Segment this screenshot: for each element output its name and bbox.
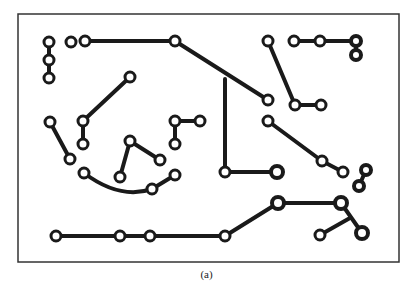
pad: [361, 165, 371, 175]
pad: [125, 136, 135, 146]
pad: [170, 139, 180, 149]
pad: [335, 197, 347, 209]
pad: [263, 36, 273, 46]
pad: [44, 73, 54, 83]
pad: [170, 170, 180, 180]
pad: [263, 95, 273, 105]
pad: [170, 36, 180, 46]
pad: [272, 197, 284, 209]
pad: [44, 37, 54, 47]
pad: [66, 37, 76, 47]
pad: [115, 231, 125, 241]
trace: [84, 173, 175, 192]
trace: [268, 41, 321, 105]
pad: [289, 36, 299, 46]
copper-traces: [49, 41, 366, 236]
pad: [195, 116, 205, 126]
pad: [44, 55, 54, 65]
pad: [290, 100, 300, 110]
pad: [338, 167, 348, 177]
pad: [125, 72, 135, 82]
pad: [220, 231, 230, 241]
pad: [263, 116, 273, 126]
pad: [316, 100, 326, 110]
pad: [356, 227, 368, 239]
pad: [145, 231, 155, 241]
pad: [315, 230, 325, 240]
pcb-layout-diagram: [0, 0, 413, 288]
pad: [170, 116, 180, 126]
pad: [351, 36, 361, 46]
pad: [315, 36, 325, 46]
pad: [45, 117, 55, 127]
trace: [83, 77, 130, 144]
pad: [80, 36, 90, 46]
pad: [65, 154, 75, 164]
pad: [51, 231, 61, 241]
pad: [220, 167, 230, 177]
figure-caption: (a): [0, 268, 413, 280]
pad: [317, 156, 327, 166]
pad: [147, 184, 157, 194]
pad: [79, 168, 89, 178]
pad: [351, 50, 361, 60]
pad: [271, 166, 283, 178]
solder-pads: [44, 36, 371, 241]
pad: [78, 116, 88, 126]
pad: [78, 139, 88, 149]
pad: [115, 172, 125, 182]
pad: [155, 155, 165, 165]
pad: [354, 181, 364, 191]
